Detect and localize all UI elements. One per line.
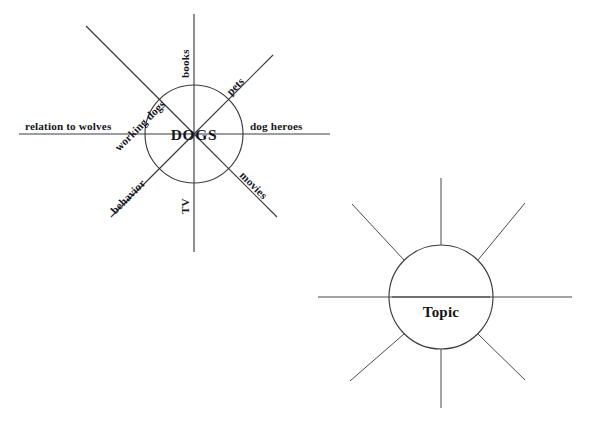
- topic-spoke-line-southeast: [478, 334, 525, 380]
- topic-spoke-line-southwest: [350, 334, 404, 381]
- topic-spoke-lines: [318, 178, 572, 408]
- topic-spoke-line-northwest: [352, 204, 404, 260]
- topic-word-web-diagram: Topic: [0, 0, 599, 429]
- topic-hub-label: Topic: [423, 304, 459, 320]
- diagram-canvas: DOGS books pets dog heroes movies TV beh…: [0, 0, 599, 429]
- topic-spoke-line-northeast: [478, 203, 525, 260]
